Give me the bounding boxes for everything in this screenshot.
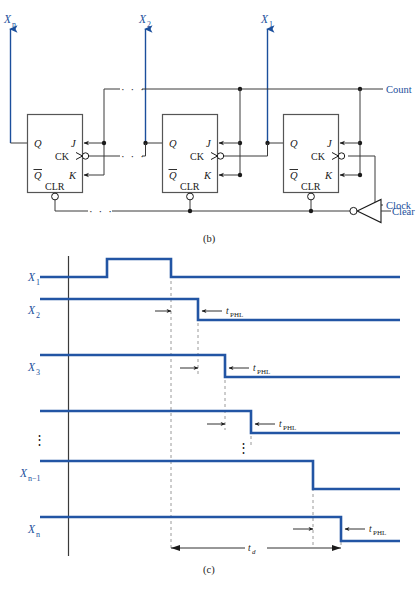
ff-1-pin-ck: CK <box>311 151 326 162</box>
output-arrow-x2 <box>143 29 163 145</box>
x3-tphl-sub: PHL <box>257 368 270 376</box>
output-label-xn-sub: n <box>12 20 16 29</box>
x3-tphl-label: t PHL <box>253 363 270 376</box>
xk-tphl-sub: PHL <box>283 424 296 432</box>
row-label-xn-sub: n <box>36 530 40 539</box>
xn-tphl-base: t <box>369 524 372 534</box>
row-vertical-dots: ⋮ <box>33 432 46 447</box>
output-label-x2: X 2 <box>138 13 151 29</box>
panel-b-caption: (b) <box>203 233 216 245</box>
output-arrow-x1 <box>265 29 284 145</box>
row-label-x1-sub: 1 <box>36 278 40 287</box>
output-label-x2-base: X <box>138 13 147 25</box>
waveform-x2 <box>40 299 400 320</box>
ff-n-jk-wires <box>84 141 120 175</box>
row-label-x1: X 1 <box>27 271 40 287</box>
row-label-xn-base: X <box>27 523 36 535</box>
row-label-xn-1-sub: n−1 <box>28 474 41 483</box>
ff-n-pin-clr: CLR <box>45 181 65 192</box>
row-label-xn: X n <box>27 523 40 539</box>
x2-tphl-label: t PHL <box>226 306 243 319</box>
ff-1-pin-q: Q <box>290 138 298 149</box>
clear-inverter[interactable] <box>350 200 391 223</box>
ff-2-pin-ck: CK <box>190 151 205 162</box>
panel-b: · · · Q Q J K CK CLR <box>3 13 415 245</box>
clear-rail-ellipsis: · · · <box>89 205 114 217</box>
row-label-x1-base: X <box>27 271 36 283</box>
row-label-x2-base: X <box>27 304 36 316</box>
figure-canvas: · · · Q Q J K CK CLR <box>0 0 419 591</box>
xn-tphl-label: t PHL <box>369 524 386 537</box>
output-arrow-xn <box>11 29 29 143</box>
output-label-x1-sub: 1 <box>269 20 273 29</box>
ff-2-pin-q: Q <box>169 138 177 149</box>
inline-vertical-dots: ⋮ <box>237 440 250 455</box>
clock-net <box>348 156 383 205</box>
output-label-x1: X 1 <box>260 13 273 29</box>
xk-tphl-base: t <box>279 419 282 429</box>
ff-n-pin-q: Q <box>34 138 42 149</box>
output-label-xn-base: X <box>3 13 12 25</box>
panel-c-caption: (c) <box>203 564 215 576</box>
td-label-base: t <box>248 543 251 553</box>
ff-n-pin-k: K <box>68 170 77 181</box>
row-label-x3-sub: 3 <box>36 368 40 377</box>
td-measure: t d <box>171 541 341 556</box>
waveform-x1 <box>40 259 400 277</box>
ff-n-pin-qbar: Q <box>34 170 42 181</box>
waveform-xn-1 <box>40 461 400 489</box>
row-label-xn-1: X n−1 <box>19 467 41 483</box>
row-label-x3: X 3 <box>27 361 40 377</box>
ff-1-pin-clr: CLR <box>301 181 321 192</box>
ff-1-pin-qbar: Q <box>290 170 298 181</box>
output-label-x1-base: X <box>260 13 269 25</box>
output-label-x2-sub: 2 <box>147 20 151 29</box>
ff-2-jk-wires <box>219 143 268 177</box>
flipflop-n[interactable]: Q Q J K CK CLR <box>28 115 89 200</box>
row-label-x2: X 2 <box>27 304 40 320</box>
ff-2-pin-qbar: Q <box>169 170 177 181</box>
xk-tphl-label: t PHL <box>279 419 296 432</box>
x2-tphl-sub: PHL <box>230 311 243 319</box>
td-label-sub: d <box>252 548 256 556</box>
flipflop-1[interactable]: Q Q J K CK CLR <box>284 115 345 200</box>
xn-tphl-sub: PHL <box>373 529 386 537</box>
waveform-xk <box>40 411 400 433</box>
panel-c: t PHL t PHL t PHL ⋮ <box>19 256 400 576</box>
row-label-xn-1-base: X <box>19 467 28 479</box>
count-label: Count <box>386 84 412 95</box>
output-label-xn: X n <box>3 13 16 29</box>
row-label-x3-base: X <box>27 361 36 373</box>
count-bus-ellipsis: · · · <box>121 83 146 95</box>
ff-1-pin-k: K <box>324 170 333 181</box>
ff-2-pin-k: K <box>203 170 212 181</box>
ff-1-jk-wires <box>340 143 362 177</box>
x3-tphl-base: t <box>253 363 256 373</box>
row-label-x2-sub: 2 <box>36 311 40 320</box>
clear-label: Clear <box>392 206 415 217</box>
ff-2-pin-clr: CLR <box>180 181 200 192</box>
figure-root: · · · Q Q J K CK CLR <box>0 0 419 591</box>
ck-chain-ellipsis-1: · · · <box>121 150 146 162</box>
x2-tphl-base: t <box>226 306 229 316</box>
flipflop-2[interactable]: Q Q J K CK CLR <box>163 115 224 200</box>
ff-n-pin-ck: CK <box>55 151 70 162</box>
waveform-x3 <box>40 355 400 377</box>
